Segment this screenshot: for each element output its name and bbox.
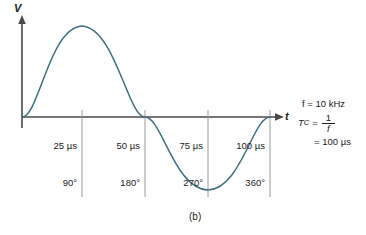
degree-tick-label-270: 270° <box>183 177 203 188</box>
y-axis <box>18 15 26 128</box>
tick-lines <box>82 117 270 197</box>
equals-sign: = <box>312 118 318 129</box>
degree-tick-label-360: 360° <box>245 177 265 188</box>
period-value-row: = 100 µs <box>314 137 364 148</box>
tick-marks <box>82 110 270 117</box>
figure-caption: (b) <box>189 211 201 222</box>
sine-wave-curve <box>22 26 270 190</box>
formula-annotations: f = 10 kHz TC = 1 f = 100 µs <box>298 99 364 148</box>
reciprocal-fraction: 1 f <box>322 113 335 134</box>
y-axis-label: V <box>14 2 21 14</box>
x-axis-label: t <box>285 110 289 122</box>
degree-tick-label-90: 90° <box>63 177 77 188</box>
fraction-numerator: 1 <box>323 113 334 123</box>
time-tick-label-50us: 50 µs <box>117 140 140 151</box>
period-subscript: C <box>304 119 309 128</box>
time-tick-label-100us: 100 µs <box>236 140 265 151</box>
frequency-text: f = 10 kHz <box>302 99 345 110</box>
period-value-text: = 100 µs <box>314 137 351 148</box>
frequency-equation: f = 10 kHz <box>302 99 364 110</box>
x-axis <box>22 113 284 121</box>
time-tick-label-75us: 75 µs <box>180 140 203 151</box>
fraction-denominator: f <box>324 124 333 134</box>
degree-tick-label-180: 180° <box>120 177 140 188</box>
sine-wave-figure: V t 25 µs 50 µs 75 µs 100 µs 90° 180° 27… <box>0 0 366 235</box>
time-tick-label-25us: 25 µs <box>54 140 77 151</box>
period-equation: TC = 1 f <box>298 113 364 134</box>
